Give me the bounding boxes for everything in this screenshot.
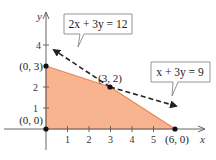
y-tick-4: 4 (36, 40, 41, 51)
x-tick-2: 2 (87, 134, 92, 145)
svg-text:x + 3y = 9: x + 3y = 9 (156, 66, 204, 79)
y-tick-1: 1 (33, 103, 38, 114)
linear-programming-graph: 1 2 3 4 5 1 2 4 y x (0, 3) (3, 2) (0, 0)… (0, 0, 216, 160)
label-0-3: (0, 3) (19, 60, 43, 73)
point-6-0 (172, 126, 177, 131)
callout-2x-3y-12: 2x + 3y = 12 (64, 14, 132, 47)
callout-x-3y-9: x + 3y = 9 (151, 62, 210, 96)
x-tick-3: 3 (108, 134, 113, 145)
x-tick-4: 4 (130, 134, 135, 145)
label-3-2: (3, 2) (98, 72, 122, 85)
y-axis-label: y (36, 10, 42, 22)
label-0-0: (0, 0) (19, 114, 43, 127)
x-tick-5: 5 (151, 134, 156, 145)
point-3-2 (107, 84, 112, 89)
point-0-0 (43, 126, 48, 131)
x-axis-label: x (199, 133, 205, 145)
label-6-0: (6, 0) (165, 133, 189, 146)
y-tick-2: 2 (33, 82, 38, 93)
point-0-3 (43, 63, 48, 68)
svg-text:2x + 3y = 12: 2x + 3y = 12 (69, 18, 128, 31)
x-tick-1: 1 (65, 134, 70, 145)
